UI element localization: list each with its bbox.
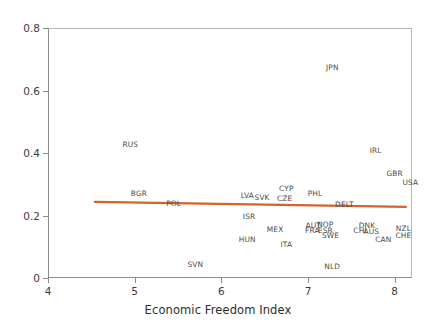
x-tick-label: 7 (305, 285, 312, 297)
data-point-label-lva: LVA (241, 192, 254, 199)
y-tick-label: 0.6 (23, 85, 40, 97)
x-tick-label: 8 (391, 285, 398, 297)
y-axis: 00.20.40.60.8 (0, 28, 48, 278)
x-tick-label: 4 (45, 285, 52, 297)
x-tick-mark (308, 278, 309, 283)
x-axis-title: Economic Freedom Index (0, 303, 436, 317)
data-point-label-swe: SWE (322, 232, 339, 239)
data-point-label-bgr: BGR (131, 191, 147, 198)
x-tick-mark (135, 278, 136, 283)
data-point-label-delt: DELT (335, 201, 354, 208)
x-tick-mark (221, 278, 222, 283)
data-point-label-jpn: JPN (326, 64, 339, 71)
x-tick-label: 6 (218, 285, 225, 297)
data-point-label-svk: SVK (255, 195, 270, 202)
scatter-plot-figure: 00.20.40.60.8 RUSBGRPOLLVASVKCYPCZEISRPH… (0, 0, 436, 328)
data-point-label-isr: ISR (243, 213, 255, 220)
x-tick-mark (395, 278, 396, 283)
data-point-label-ita: ITA (281, 241, 293, 248)
x-tick-label: 5 (131, 285, 138, 297)
data-point-label-phl: PHL (308, 191, 323, 198)
data-layer: RUSBGRPOLLVASVKCYPCZEISRPHLDELTIRLGBRUSA… (48, 28, 412, 278)
trend-line (48, 28, 412, 278)
trend-line-segment (95, 202, 406, 207)
data-point-label-cyp: CYP (279, 185, 293, 192)
data-point-label-gbr: GBR (386, 170, 402, 177)
data-point-label-cze: CZE (277, 196, 292, 203)
data-point-label-pol: POL (166, 200, 181, 207)
y-tick-label: 0.8 (23, 22, 40, 34)
y-tick-label: 0 (33, 272, 40, 284)
data-point-label-rus: RUS (122, 141, 138, 148)
data-point-label-hun: HUN (239, 236, 256, 243)
y-tick-label: 0.2 (23, 210, 40, 222)
y-tick-label: 0.4 (23, 147, 40, 159)
data-point-label-svn: SVN (187, 261, 203, 268)
data-point-label-can: CAN (375, 236, 391, 243)
data-point-label-irl: IRL (370, 148, 382, 155)
data-point-label-usa: USA (402, 179, 418, 186)
x-tick-mark (48, 278, 49, 283)
data-point-label-che: CHE (395, 232, 411, 239)
data-point-label-nld: NLD (324, 263, 340, 270)
x-axis: 45678 (48, 278, 412, 302)
data-point-label-mex: MEX (267, 226, 284, 233)
